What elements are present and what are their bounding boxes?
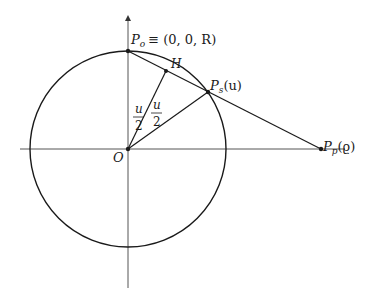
half-angle-left: u 2 xyxy=(133,102,144,133)
sphere-point-label: Ps(u) xyxy=(209,78,242,95)
midpoint-H xyxy=(164,69,168,73)
svg-text:2: 2 xyxy=(153,115,161,129)
stereographic-projection-diagram: Po≡ (0, 0, R) H Ps(u) Pp(ϱ) O u 2 u 2 xyxy=(0,0,370,306)
north-pole-label: Po≡ (0, 0, R) xyxy=(130,32,216,49)
svg-text:u: u xyxy=(153,98,161,112)
origin-point xyxy=(126,147,130,151)
north-pole-point xyxy=(126,49,130,53)
midpoint-H-label: H xyxy=(170,57,182,71)
plane-point-label: Pp(ϱ) xyxy=(322,139,355,156)
origin-label: O xyxy=(113,150,124,165)
half-angle-right: u 2 xyxy=(151,98,162,129)
svg-text:u: u xyxy=(135,102,143,116)
svg-text:2: 2 xyxy=(135,119,143,133)
